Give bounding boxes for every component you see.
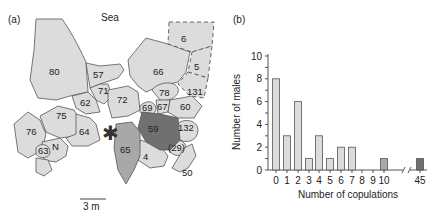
svg-text:65: 65 bbox=[120, 144, 131, 155]
svg-text:N: N bbox=[52, 141, 59, 152]
svg-text:131: 131 bbox=[187, 86, 203, 97]
bar-3 bbox=[306, 159, 313, 170]
svg-text:50: 50 bbox=[182, 167, 193, 178]
x-tick-label: 6 bbox=[338, 175, 344, 186]
x-tick-label: 1 bbox=[284, 175, 290, 186]
svg-text:66: 66 bbox=[153, 66, 164, 77]
svg-text:59: 59 bbox=[148, 123, 159, 134]
svg-text:6: 6 bbox=[181, 33, 186, 44]
svg-text:69: 69 bbox=[142, 102, 153, 113]
svg-text:75: 75 bbox=[56, 110, 67, 121]
bar-0 bbox=[273, 79, 280, 170]
y-tick-label: 10 bbox=[251, 51, 263, 62]
x-tick-label: 7 bbox=[349, 175, 355, 186]
bar-2 bbox=[295, 102, 302, 170]
x-tick-label: 5 bbox=[327, 175, 333, 186]
bar-4 bbox=[316, 136, 323, 170]
svg-text:67: 67 bbox=[157, 101, 168, 112]
svg-text:(29): (29) bbox=[168, 142, 185, 153]
svg-text:64: 64 bbox=[79, 126, 90, 137]
svg-text:72: 72 bbox=[117, 94, 128, 105]
x-tick-label: 9 bbox=[370, 175, 376, 186]
y-tick-label: 8 bbox=[256, 73, 262, 84]
x-tick-label: 8 bbox=[359, 175, 365, 186]
copulations-bar-chart: 0246810 01234567891045 Number of copulat… bbox=[221, 0, 442, 217]
y-tick-label: 6 bbox=[256, 96, 262, 107]
bar-45 bbox=[417, 159, 424, 170]
x-tick-label: 4 bbox=[316, 175, 322, 186]
x-tick-label: 3 bbox=[306, 175, 312, 186]
x-axis-title: Number of copulations bbox=[298, 189, 398, 200]
territory-map: 80 57 71 62 72 66 6 5 131 78 69 67 60 75… bbox=[0, 0, 221, 217]
svg-text:5: 5 bbox=[194, 61, 199, 72]
x-tick-label: 10 bbox=[378, 175, 390, 186]
star-marker-icon: ✱ bbox=[102, 121, 119, 145]
y-tick-label: 2 bbox=[256, 142, 262, 153]
bar-7 bbox=[349, 147, 356, 170]
y-tick-label: 0 bbox=[256, 165, 262, 176]
x-tick-label: 45 bbox=[414, 175, 426, 186]
svg-text:132: 132 bbox=[178, 122, 194, 133]
svg-text:60: 60 bbox=[180, 101, 191, 112]
bar-10 bbox=[381, 159, 388, 170]
svg-text:71: 71 bbox=[98, 85, 109, 96]
svg-text:4: 4 bbox=[143, 151, 148, 162]
x-tick-label: 2 bbox=[295, 175, 301, 186]
svg-text:80: 80 bbox=[49, 66, 60, 77]
x-tick-label: 0 bbox=[273, 175, 279, 186]
territory-80 bbox=[30, 19, 88, 100]
bar-5 bbox=[327, 159, 334, 170]
svg-text:57: 57 bbox=[93, 69, 104, 80]
y-tick-label: 4 bbox=[256, 119, 262, 130]
y-axis-title: Number of males bbox=[231, 74, 242, 150]
scale-label: 3 m bbox=[83, 201, 100, 212]
svg-text:62: 62 bbox=[80, 97, 91, 108]
svg-text:78: 78 bbox=[159, 87, 170, 98]
bar-1 bbox=[284, 136, 291, 170]
bar-6 bbox=[338, 147, 345, 170]
svg-text:76: 76 bbox=[26, 126, 37, 137]
svg-text:63: 63 bbox=[38, 145, 49, 156]
